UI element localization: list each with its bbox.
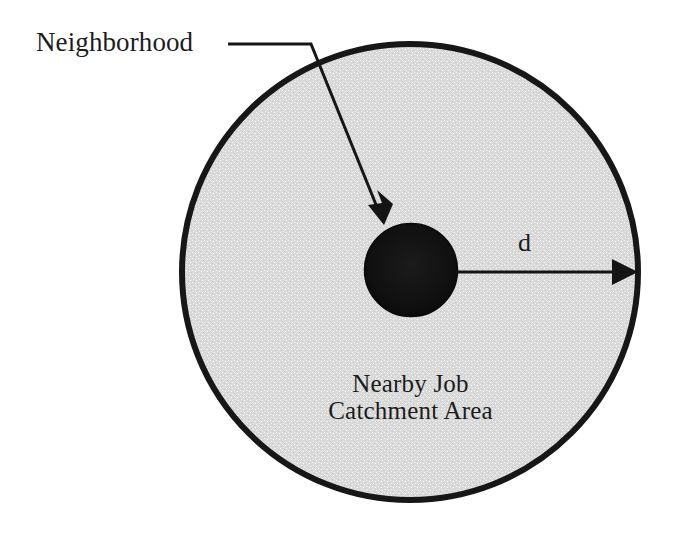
distance-label: d — [518, 229, 531, 257]
diagram-canvas — [0, 0, 683, 533]
catchment-area-label-line-2: Catchment Area — [183, 398, 638, 424]
figure-root: Neighborhood d Nearby Job Catchment Area — [0, 0, 683, 533]
neighborhood-circle — [365, 224, 458, 317]
catchment-area-label: Nearby Job Catchment Area — [183, 371, 638, 424]
catchment-area-label-line-1: Nearby Job — [183, 371, 638, 397]
neighborhood-label: Neighborhood — [36, 27, 193, 57]
